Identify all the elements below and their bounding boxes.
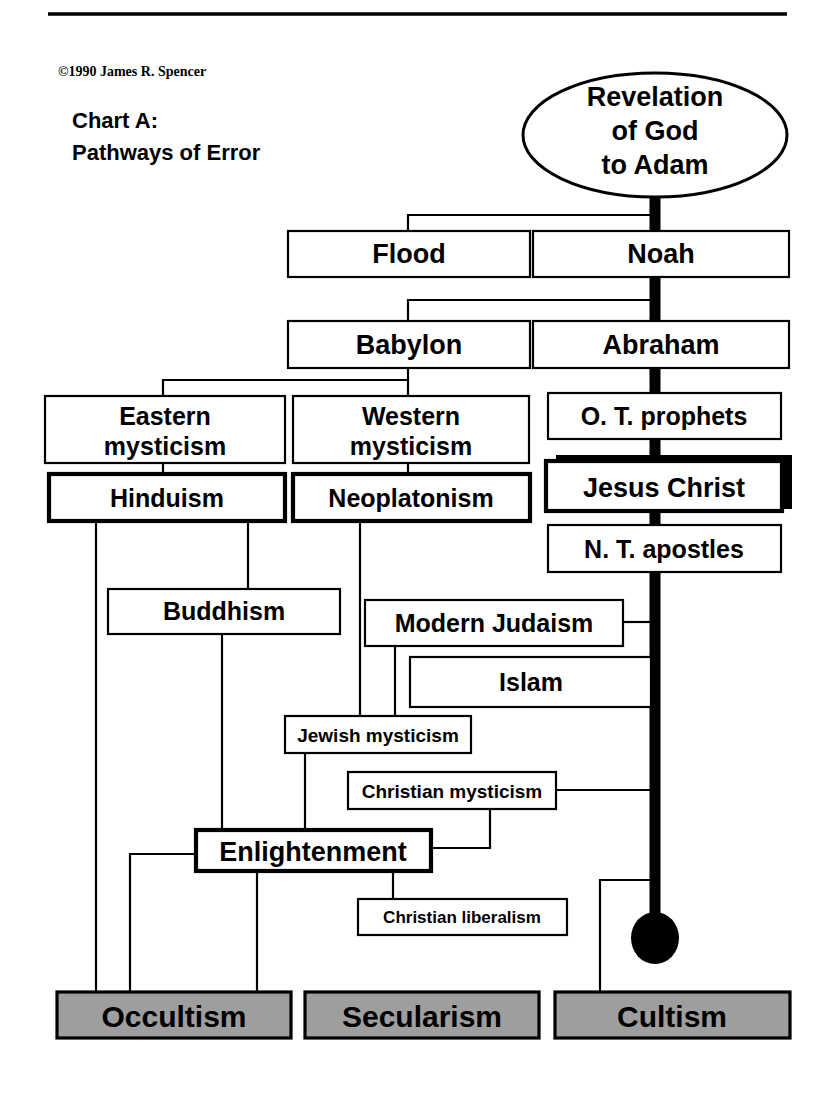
trunk-terminator-dot <box>631 912 679 964</box>
jesus-christ-label: Jesus Christ <box>583 473 745 503</box>
neoplatonism-label: Neoplatonism <box>328 484 493 512</box>
christian-liberalism-label: Christian liberalism <box>383 908 541 927</box>
ot-prophets-label: O. T. prophets <box>581 402 748 430</box>
flood-label: Flood <box>372 239 445 269</box>
node-islam[interactable]: Islam <box>410 657 651 707</box>
node-revelation[interactable]: Revelation of God to Adam <box>523 73 787 197</box>
node-ot-prophets[interactable]: O. T. prophets <box>548 393 781 439</box>
secularism-label: Secularism <box>342 1000 502 1033</box>
node-jesus-christ[interactable]: Jesus Christ <box>546 455 792 511</box>
occultism-label: Occultism <box>101 1000 246 1033</box>
node-modern-judaism[interactable]: Modern Judaism <box>365 600 623 646</box>
node-christian-mysticism[interactable]: Christian mysticism <box>348 772 556 809</box>
node-enlightenment[interactable]: Enlightenment <box>196 830 431 871</box>
eastern-mysticism-label-line2: mysticism <box>104 432 226 460</box>
revelation-label-line1: Revelation <box>587 82 724 112</box>
node-hinduism[interactable]: Hinduism <box>49 474 285 521</box>
node-nt-apostles[interactable]: N. T. apostles <box>548 525 781 572</box>
node-jewish-mysticism[interactable]: Jewish mysticism <box>285 716 471 753</box>
edge-noah-babylon <box>408 300 655 321</box>
node-noah[interactable]: Noah <box>533 231 789 277</box>
eastern-mysticism-label-line1: Eastern <box>119 402 211 430</box>
node-cultism[interactable]: Cultism <box>555 992 790 1038</box>
node-flood[interactable]: Flood <box>288 231 530 277</box>
node-western-mysticism[interactable]: Western mysticism <box>293 396 529 463</box>
enlightenment-label: Enlightenment <box>219 837 407 867</box>
edge-christian-mysticism-enlightenment <box>431 808 490 848</box>
jewish-mysticism-label: Jewish mysticism <box>297 725 459 746</box>
chart-title-line2: Pathways of Error <box>72 140 261 165</box>
node-buddhism[interactable]: Buddhism <box>108 589 340 634</box>
node-christian-liberalism[interactable]: Christian liberalism <box>358 899 567 935</box>
western-mysticism-label-line1: Western <box>362 402 460 430</box>
cultism-label: Cultism <box>617 1000 727 1033</box>
christian-mysticism-label: Christian mysticism <box>362 781 543 802</box>
revelation-label-line3: to Adam <box>602 150 709 180</box>
abraham-label: Abraham <box>602 330 719 360</box>
node-occultism[interactable]: Occultism <box>57 992 291 1038</box>
modern-judaism-label: Modern Judaism <box>395 609 594 637</box>
islam-label: Islam <box>499 668 563 696</box>
edge-enlightenment-occultism <box>130 854 196 992</box>
copyright-text: ©1990 James R. Spencer <box>58 64 206 79</box>
noah-label: Noah <box>627 239 695 269</box>
edge-revelation-flood <box>408 215 655 231</box>
nt-apostles-label: N. T. apostles <box>584 535 744 563</box>
node-secularism[interactable]: Secularism <box>305 992 539 1038</box>
edge-babylon-eastern <box>163 380 408 396</box>
revelation-label-line2: of God <box>612 116 699 146</box>
chart-a-pathways-of-error: ©1990 James R. Spencer Chart A: Pathways… <box>0 0 831 1098</box>
node-babylon[interactable]: Babylon <box>288 321 530 368</box>
hinduism-label: Hinduism <box>110 484 224 512</box>
chart-title-line1: Chart A: <box>72 108 158 133</box>
node-abraham[interactable]: Abraham <box>533 321 789 368</box>
babylon-label: Babylon <box>356 330 463 360</box>
buddhism-label: Buddhism <box>163 597 285 625</box>
node-eastern-mysticism[interactable]: Eastern mysticism <box>45 396 285 463</box>
western-mysticism-label-line2: mysticism <box>350 432 472 460</box>
node-neoplatonism[interactable]: Neoplatonism <box>293 474 530 521</box>
